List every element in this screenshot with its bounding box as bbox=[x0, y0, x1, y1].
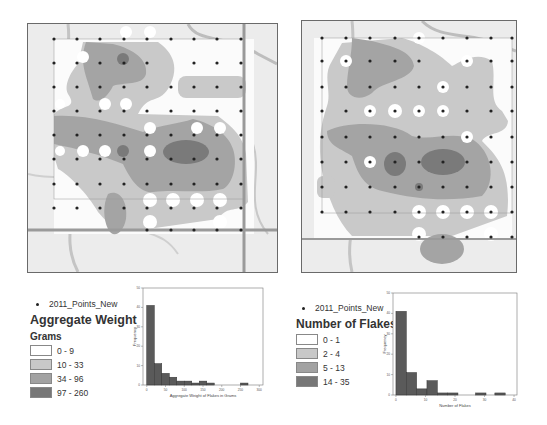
histogram-bar bbox=[437, 393, 447, 395]
x-tick-label: 300 bbox=[257, 388, 263, 392]
class-swatch bbox=[30, 359, 52, 370]
class-label: 10 - 33 bbox=[57, 360, 83, 370]
x-tick-label: 50 bbox=[164, 388, 168, 392]
x-tick-label: 40 bbox=[512, 398, 516, 402]
x-tick-label: 0 bbox=[395, 398, 397, 402]
class-swatch bbox=[30, 373, 52, 384]
y-tick-label: 10 bbox=[386, 373, 390, 377]
x-axis-label: Aggregate Weight of Flakes in Grams bbox=[170, 393, 237, 398]
x-axis-label: Number of Flakes bbox=[439, 403, 471, 408]
histogram-bar bbox=[199, 381, 207, 385]
y-axis-label: Frequency bbox=[382, 335, 387, 354]
histogram-bar bbox=[241, 383, 249, 385]
y-tick-label: 40 bbox=[136, 305, 140, 309]
histogram-bar bbox=[169, 377, 177, 385]
histogram-bar bbox=[406, 373, 416, 395]
legend-class: 97 - 260 bbox=[30, 387, 137, 398]
y-tick-label: 10 bbox=[136, 364, 140, 368]
x-tick-label: 0 bbox=[146, 388, 148, 392]
map-canvas bbox=[28, 24, 277, 272]
histogram-canvas: 01020304001020304050Number of FlakesFreq… bbox=[380, 286, 520, 412]
x-tick-label: 250 bbox=[238, 388, 244, 392]
y-tick-label: 30 bbox=[386, 332, 390, 336]
points-layer-label: 2011_Points_New bbox=[315, 303, 383, 313]
points-layer-label: 2011_Points_New bbox=[49, 299, 117, 309]
point-symbol-icon bbox=[36, 303, 39, 306]
class-swatch bbox=[30, 345, 52, 356]
number-of-flakes-map bbox=[301, 20, 517, 273]
class-label: 97 - 260 bbox=[57, 388, 88, 398]
x-tick-label: 20 bbox=[453, 398, 457, 402]
y-axis-label: Frequency bbox=[132, 327, 137, 346]
class-label: 5 - 13 bbox=[323, 363, 345, 373]
class-swatch bbox=[296, 348, 318, 359]
class-swatch bbox=[296, 334, 318, 345]
number-of-flakes-histogram: 01020304001020304050Number of FlakesFreq… bbox=[380, 286, 520, 412]
y-tick-label: 30 bbox=[136, 325, 140, 329]
class-label: 34 - 96 bbox=[57, 374, 83, 384]
legend-class: 10 - 33 bbox=[30, 359, 137, 370]
histogram-bar bbox=[427, 381, 437, 395]
legend-title: Aggregate Weight bbox=[30, 313, 137, 327]
histogram-bar bbox=[147, 305, 155, 385]
histogram-bar bbox=[495, 393, 505, 395]
class-swatch bbox=[296, 362, 318, 373]
map-canvas bbox=[302, 21, 516, 272]
y-tick-label: 0 bbox=[138, 383, 140, 387]
x-tick-label: 150 bbox=[200, 388, 206, 392]
histogram-bar bbox=[192, 383, 200, 385]
class-swatch bbox=[296, 376, 318, 387]
legend-class: 0 - 9 bbox=[30, 345, 137, 356]
class-swatch bbox=[30, 387, 52, 398]
histogram-bar bbox=[184, 381, 192, 385]
class-label: 14 - 35 bbox=[323, 377, 349, 387]
y-tick-label: 50 bbox=[386, 291, 390, 295]
point-symbol-icon bbox=[302, 307, 305, 310]
histogram-bar bbox=[476, 393, 486, 395]
y-tick-label: 50 bbox=[136, 286, 140, 290]
aggregate-weight-legend: 2011_Points_New Aggregate Weight Grams 0… bbox=[30, 299, 137, 398]
histogram-bar bbox=[177, 381, 185, 385]
class-label: 2 - 4 bbox=[323, 349, 340, 359]
histogram-bar bbox=[207, 383, 215, 385]
aggregate-weight-map bbox=[27, 23, 278, 273]
x-tick-label: 200 bbox=[219, 388, 225, 392]
y-tick-label: 20 bbox=[386, 352, 390, 356]
y-tick-label: 40 bbox=[386, 311, 390, 315]
x-tick-label: 10 bbox=[424, 398, 428, 402]
y-tick-label: 20 bbox=[136, 344, 140, 348]
legend-class: 34 - 96 bbox=[30, 373, 137, 384]
y-tick-label: 0 bbox=[388, 393, 390, 397]
points-layer-entry: 2011_Points_New bbox=[30, 299, 137, 309]
histogram-bar bbox=[448, 393, 458, 395]
class-label: 0 - 9 bbox=[57, 346, 74, 356]
histogram-bar bbox=[417, 389, 427, 395]
histogram-canvas: 05010015020025030001020304050Aggregate W… bbox=[130, 282, 270, 400]
legend-subtitle: Grams bbox=[30, 331, 137, 342]
histogram-bar bbox=[396, 311, 406, 395]
histogram-bar bbox=[162, 373, 170, 385]
aggregate-weight-histogram: 05010015020025030001020304050Aggregate W… bbox=[130, 282, 270, 400]
x-tick-label: 30 bbox=[483, 398, 487, 402]
histogram-bar bbox=[154, 364, 162, 385]
class-label: 0 - 1 bbox=[323, 335, 340, 345]
x-tick-label: 100 bbox=[182, 388, 188, 392]
